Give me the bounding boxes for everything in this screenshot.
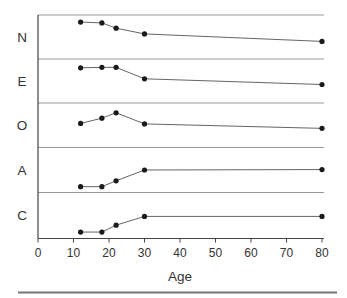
data-point-c: [319, 214, 324, 219]
data-point-e: [99, 65, 104, 70]
data-point-o: [319, 126, 324, 131]
x-tick-label: 50: [209, 246, 223, 260]
data-point-e: [114, 65, 119, 70]
data-point-a: [78, 184, 83, 189]
panel-label-n: N: [17, 30, 27, 45]
x-tick-label: 10: [67, 246, 81, 260]
data-point-n: [142, 31, 147, 36]
x-axis-label: Age: [168, 269, 192, 284]
trend-line-a: [81, 170, 322, 187]
data-point-a: [319, 167, 324, 172]
data-point-e: [319, 82, 324, 87]
data-point-c: [114, 223, 119, 228]
panel-label-c: C: [17, 208, 27, 223]
trend-line-e: [81, 67, 322, 84]
x-tick-label: 20: [102, 246, 116, 260]
data-point-n: [78, 19, 83, 24]
x-tick-label: 30: [138, 246, 152, 260]
data-point-n: [319, 39, 324, 44]
data-point-o: [142, 121, 147, 126]
x-tick-label: 70: [280, 246, 294, 260]
trend-line-n: [81, 22, 322, 41]
data-point-n: [99, 20, 104, 25]
big-five-traits-by-age-chart: 01020304050607080AgeNEOAC: [0, 0, 347, 298]
data-point-e: [78, 65, 83, 70]
data-point-a: [99, 184, 104, 189]
data-point-n: [114, 26, 119, 31]
data-point-o: [78, 121, 83, 126]
data-point-c: [142, 214, 147, 219]
data-point-c: [99, 229, 104, 234]
figure-page: 01020304050607080AgeNEOAC: [0, 0, 347, 298]
data-point-e: [142, 76, 147, 81]
x-tick-label: 40: [173, 246, 187, 260]
data-point-o: [114, 110, 119, 115]
data-point-o: [99, 116, 104, 121]
data-point-a: [142, 167, 147, 172]
panel-label-a: A: [17, 163, 26, 178]
x-tick-label: 80: [315, 246, 329, 260]
panel-label-e: E: [17, 74, 26, 89]
panel-label-o: O: [17, 118, 28, 133]
x-tick-label: 60: [244, 246, 258, 260]
x-tick-label: 0: [35, 246, 42, 260]
data-point-a: [114, 178, 119, 183]
data-point-c: [78, 229, 83, 234]
